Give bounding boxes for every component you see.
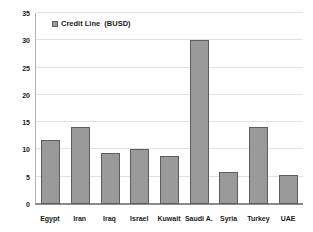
x-tick-slot: Syria: [214, 207, 244, 227]
y-tick-label: 20: [22, 91, 30, 98]
bar: [41, 140, 60, 204]
x-tick-label: Saudi A.: [185, 215, 213, 222]
x-tick-slot: Israel: [124, 207, 154, 227]
x-tick-label: Syria: [220, 215, 237, 222]
bar-chart: 05101520253035 EgyptIranIraqIsraelKuwait…: [0, 0, 313, 232]
x-tick-slot: Turkey: [243, 207, 273, 227]
y-tick-label: 5: [26, 173, 30, 180]
bar: [249, 127, 268, 204]
x-tick-label: Kuwait: [158, 215, 181, 222]
legend-entry-label: Credit Line (BUSD): [61, 20, 131, 28]
bar-slot: [184, 13, 214, 204]
bar-slot: [273, 13, 303, 204]
x-tick-slot: Egypt: [35, 207, 65, 227]
y-tick-label: 30: [22, 37, 30, 44]
chart-legend: Credit Line (BUSD): [52, 20, 131, 28]
x-tick-label: Turkey: [247, 215, 269, 222]
y-tick-label: 0: [26, 201, 30, 208]
x-tick-slot: Iran: [65, 207, 95, 227]
plot-area: [35, 13, 303, 205]
bar: [219, 172, 238, 204]
bar: [101, 153, 120, 204]
bar: [279, 175, 298, 204]
bar-series: [36, 13, 303, 204]
bar: [190, 40, 209, 204]
bar-slot: [214, 13, 244, 204]
x-tick-slot: UAE: [273, 207, 303, 227]
x-tick-label: Israel: [130, 215, 148, 222]
bar-slot: [125, 13, 155, 204]
bar-slot: [95, 13, 125, 204]
x-tick-label: Iran: [73, 215, 86, 222]
x-tick-slot: Saudi A.: [184, 207, 214, 227]
x-tick-slot: Kuwait: [154, 207, 184, 227]
bar-slot: [36, 13, 66, 204]
x-tick-slot: Iraq: [95, 207, 125, 227]
bar-slot: [155, 13, 185, 204]
x-tick-label: Egypt: [40, 215, 59, 222]
bar-slot: [244, 13, 274, 204]
bar-slot: [66, 13, 96, 204]
y-axis: 05101520253035: [0, 0, 35, 232]
x-tick-label: Iraq: [103, 215, 116, 222]
y-tick-label: 25: [22, 64, 30, 71]
x-axis: EgyptIranIraqIsraelKuwaitSaudi A.SyriaTu…: [35, 207, 303, 227]
bar: [160, 156, 179, 204]
y-tick-label: 35: [22, 10, 30, 17]
y-tick-label: 10: [22, 146, 30, 153]
x-tick-label: UAE: [281, 215, 296, 222]
y-tick-label: 15: [22, 119, 30, 126]
legend-swatch-icon: [52, 21, 58, 27]
bar: [130, 149, 149, 204]
bar: [71, 127, 90, 204]
